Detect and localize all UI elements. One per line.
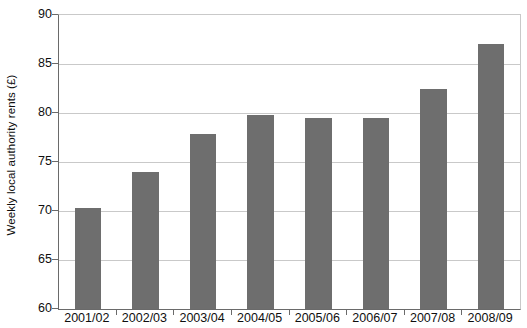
y-axis-tick-label: 60	[22, 302, 52, 314]
bar	[190, 134, 217, 309]
x-axis-tick-label: 2002/03	[122, 311, 167, 326]
x-axis-tick-labels: 2001/022002/032003/042004/052005/062006/…	[58, 311, 519, 328]
bar	[247, 115, 274, 309]
plot-area	[58, 14, 521, 310]
y-axis-title: Weekly local authority rents (£)	[0, 0, 22, 310]
x-axis-tick-label: 2006/07	[352, 311, 397, 326]
bar	[132, 172, 159, 309]
y-axis-tick-labels: 60657075808590	[22, 0, 52, 328]
y-axis-tick-label: 85	[22, 57, 52, 69]
y-axis-tick-label: 65	[22, 253, 52, 265]
bar	[75, 208, 102, 309]
x-axis-tick-label: 2001/02	[64, 311, 109, 326]
x-axis-tick-label: 2008/09	[468, 311, 513, 326]
y-axis-tick-label: 75	[22, 155, 52, 167]
bar	[478, 44, 505, 309]
x-axis-tick-label: 2004/05	[237, 311, 282, 326]
x-axis-tick-label: 2007/08	[410, 311, 455, 326]
bar	[420, 89, 447, 310]
y-axis-tick-label: 90	[22, 8, 52, 20]
y-axis-tick-label: 80	[22, 106, 52, 118]
bar-chart-figure: Weekly local authority rents (£) 6065707…	[0, 0, 527, 328]
y-axis-title-text: Weekly local authority rents (£)	[5, 75, 17, 236]
bar-series	[59, 15, 520, 309]
x-axis-tick-label: 2005/06	[295, 311, 340, 326]
y-axis-tick-label: 70	[22, 204, 52, 216]
bar	[363, 118, 390, 309]
bar	[305, 118, 332, 309]
x-axis-tick-label: 2003/04	[179, 311, 224, 326]
